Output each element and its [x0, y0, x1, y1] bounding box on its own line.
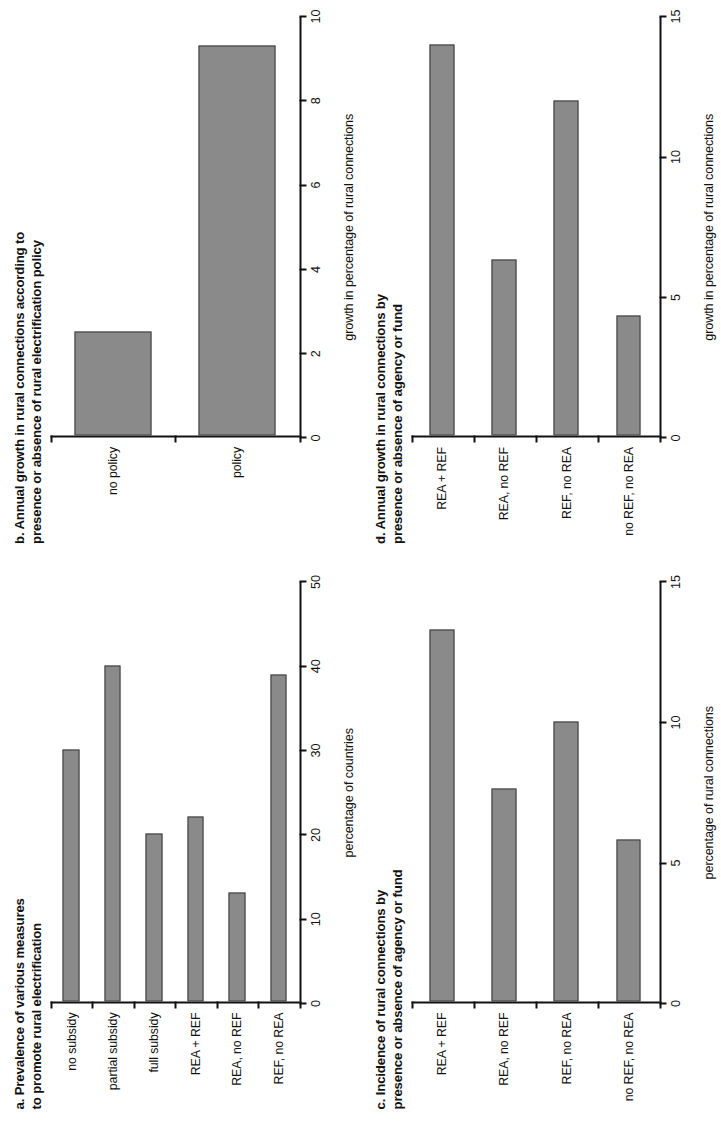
panel-d-title: d. Annual growth in rural connections by…	[371, 16, 407, 544]
panel-d-category-label: no REF, no REA	[622, 438, 634, 546]
panel-b-bar-row	[174, 16, 298, 436]
panel-c-value-tick	[659, 581, 666, 583]
panel-d-bars	[411, 16, 660, 438]
panel-a-bar-row	[216, 582, 257, 1002]
panel-c-category-labels: REA + REFREA, no REFREF, no REAno REF, n…	[411, 1003, 660, 1111]
panel-c-value-tick-label: 10	[668, 715, 682, 729]
panel-b-bar-row	[50, 16, 174, 436]
panel-a-bar	[228, 892, 245, 1001]
panel-d-value-tick	[659, 156, 666, 158]
panel-a-axis-line	[299, 582, 301, 1004]
chart-panel-a: a. Prevalence of various measures to pro…	[0, 566, 361, 1131]
panel-a-category-label: REA + REF	[189, 1003, 201, 1111]
panel-a-value-tick	[299, 665, 306, 667]
panel-d-value-tick	[659, 437, 666, 439]
panel-b-title: b. Annual growth in rural connections ac…	[10, 16, 46, 544]
panel-d-category-tick	[597, 436, 599, 443]
panel-a-title: a. Prevalence of various measures to pro…	[10, 582, 46, 1110]
panel-c-category-label: REA, no REF	[497, 1003, 509, 1111]
panel-a-value-tick-label: 30	[308, 743, 322, 757]
panel-b-value-tick-label: 0	[308, 434, 322, 441]
panel-d-value-tick-label: 10	[668, 150, 682, 164]
panel-c-category-label: no REF, no REA	[622, 1003, 634, 1111]
panel-a-bar	[270, 674, 287, 1001]
panel-a-value-axis: 01020304050	[299, 582, 345, 1004]
panel-a-value-tick	[299, 749, 306, 751]
panel-d-category-tick	[411, 436, 413, 443]
panel-d-bar-row	[535, 16, 597, 436]
panel-b-bar	[198, 45, 275, 435]
panel-a-bar-row	[133, 582, 174, 1002]
panel-a-bar	[104, 665, 121, 1001]
panel-c-bar	[491, 788, 516, 1001]
panel-c-axis-line	[659, 582, 661, 1004]
panel-d-bar-row	[597, 16, 659, 436]
panel-a-category-tick	[91, 1001, 93, 1008]
panel-d-value-tick	[659, 296, 666, 298]
panel-a-bar-row	[257, 582, 298, 1002]
panel-c-bar-row	[535, 582, 597, 1002]
panel-a-value-tick-label: 0	[308, 999, 322, 1006]
figure-canvas: a. Prevalence of various measures to pro…	[0, 0, 721, 1131]
panel-a-bar-row	[50, 582, 91, 1002]
panel-b-category-tick	[50, 436, 52, 443]
panel-d-axis-line	[659, 16, 661, 438]
panel-grid: a. Prevalence of various measures to pro…	[0, 0, 721, 1131]
panel-d-plot: REA + REFREA, no REFREF, no REAno REF, n…	[411, 16, 660, 546]
panel-c-value-tick-label: 0	[668, 999, 682, 1006]
panel-d-bar	[616, 315, 641, 435]
panel-d-category-tick	[535, 436, 537, 443]
panel-a-category-label: full subsidy	[147, 1003, 159, 1111]
panel-a-value-tick	[299, 833, 306, 835]
panel-a-plot: no subsidypartial subsidyfull subsidyREA…	[50, 582, 299, 1112]
panel-d-category-label: REA + REF	[435, 438, 447, 546]
panel-b-category-ticks	[50, 436, 299, 443]
panel-b-bar	[74, 331, 151, 436]
panel-a-value-tick	[299, 1002, 306, 1004]
panel-b-value-tick	[299, 352, 306, 354]
panel-c-category-tick	[411, 1001, 413, 1008]
panel-d-category-label: REA, no REF	[497, 438, 509, 546]
panel-b-value-tick-label: 2	[308, 350, 322, 357]
panel-a-bar	[187, 816, 204, 1001]
panel-a-category-tick	[174, 1001, 176, 1008]
panel-d-bar-row	[473, 16, 535, 436]
panel-b-category-labels: no policypolicy	[50, 438, 299, 546]
panel-b-value-tick	[299, 99, 306, 101]
panel-a-category-labels: no subsidypartial subsidyfull subsidyREA…	[50, 1003, 299, 1111]
panel-b-category-label: no policy	[106, 438, 118, 546]
panel-c-bars	[411, 582, 660, 1004]
panel-a-value-tick-label: 50	[308, 574, 322, 588]
panel-a-bar	[62, 749, 79, 1001]
panel-c-bar	[429, 629, 454, 1001]
panel-d-category-label: REF, no REA	[560, 438, 572, 546]
panel-a-category-label: partial subsidy	[106, 1003, 118, 1111]
panel-a-value-tick	[299, 918, 306, 920]
panel-b-value-tick	[299, 15, 306, 17]
panel-d-bar	[553, 100, 578, 436]
panel-b-value-axis: 0246810	[299, 16, 345, 438]
panel-d-category-tick	[473, 436, 475, 443]
panel-c-category-tick	[535, 1001, 537, 1008]
panel-b-plot: no policypolicy	[50, 16, 299, 546]
panel-c-bar-row	[473, 582, 535, 1002]
panel-a-bars	[50, 582, 299, 1004]
panel-c-value-tick	[659, 862, 666, 864]
panel-c-title: c. Incidence of rural connections by pre…	[371, 582, 407, 1110]
panel-c-bar-row	[597, 582, 659, 1002]
panel-a-value-tick-label: 10	[308, 912, 322, 926]
panel-d-value-tick	[659, 15, 666, 17]
panel-c-bar-row	[411, 582, 473, 1002]
panel-a-value-tick-label: 40	[308, 659, 322, 673]
panel-a-category-tick	[257, 1001, 259, 1008]
panel-c-value-axis: 051015	[659, 582, 705, 1004]
panel-a-category-tick	[133, 1001, 135, 1008]
panel-b-value-tick	[299, 437, 306, 439]
panel-c-bar	[616, 839, 641, 1001]
panel-c-category-ticks	[411, 1001, 660, 1008]
panel-c-value-tick-label: 15	[668, 574, 682, 588]
panel-a-category-label: REA, no REF	[230, 1003, 242, 1111]
panel-a-category-tick	[50, 1001, 52, 1008]
panel-d-value-axis: 051015	[659, 16, 705, 438]
panel-b-axis-line	[299, 16, 301, 438]
